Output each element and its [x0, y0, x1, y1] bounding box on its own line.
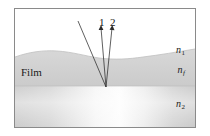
film-label: Film: [21, 67, 42, 78]
refractive-index-n1-label: n1: [176, 45, 185, 57]
ray-2-label: 2: [110, 17, 116, 28]
figure-panel: 1 2 Film n1 nf n2: [14, 8, 196, 128]
n2-subscript: 2: [181, 103, 185, 111]
refractive-index-n2-label: n2: [176, 99, 185, 111]
film-layer: [15, 49, 195, 86]
ray-1-label: 1: [99, 17, 105, 28]
nf-subscript: f: [183, 69, 185, 77]
refractive-index-nf-label: nf: [178, 65, 185, 77]
nf-base: n: [178, 64, 183, 75]
substrate-layer: [15, 86, 195, 127]
n1-subscript: 1: [181, 49, 185, 57]
diagram-canvas: [15, 9, 195, 127]
